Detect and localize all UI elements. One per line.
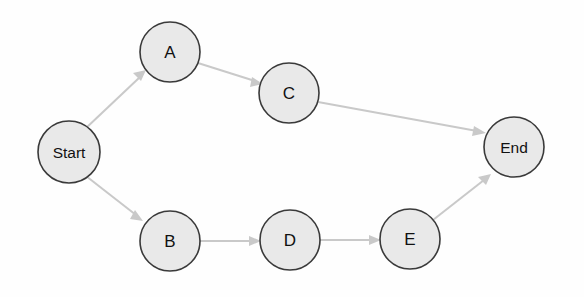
node-start[interactable]: Start [38, 121, 100, 183]
node-start-label: Start [53, 144, 86, 161]
node-d[interactable]: D [260, 210, 320, 270]
node-end-label: End [500, 139, 528, 156]
node-e[interactable]: E [380, 209, 440, 269]
node-e-label: E [404, 230, 415, 249]
node-b[interactable]: B [140, 211, 200, 271]
node-end[interactable]: End [484, 117, 544, 177]
node-b-label: B [164, 232, 175, 251]
node-c-label: C [283, 84, 295, 103]
node-a-label: A [164, 43, 176, 62]
node-d-label: D [284, 231, 296, 250]
node-a[interactable]: A [140, 22, 200, 82]
node-c[interactable]: C [259, 63, 319, 123]
flow-diagram: Start A C End B D E [0, 0, 584, 297]
